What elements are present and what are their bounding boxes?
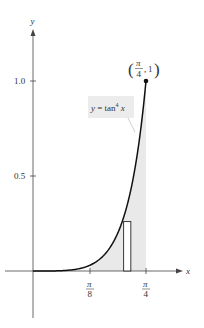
annotation-paren-right: )	[154, 60, 160, 79]
function-label: y = tan4 x	[90, 102, 125, 113]
representative-rectangle	[124, 222, 131, 271]
leader-line	[128, 118, 135, 132]
chart: x y 1.0 0.5 π 8 π 4 ( π 4 , 1 ) y = tan4…	[0, 0, 204, 328]
endpoint-dot	[144, 79, 149, 84]
y-tick-label-0.5: 0.5	[14, 171, 26, 181]
x-tick-label-pi-8-den: 8	[88, 289, 93, 299]
x-tick-label-pi-8-num: π	[87, 279, 92, 289]
annotation-num: π	[136, 58, 141, 68]
annotation-y: 1	[148, 64, 153, 74]
y-axis-arrow-icon	[31, 29, 36, 36]
x-tick-label-pi-4-num: π	[143, 279, 148, 289]
x-axis-arrow-icon	[176, 269, 183, 274]
x-tick-label-pi-4-den: 4	[144, 289, 149, 299]
x-axis-label: x	[185, 266, 190, 276]
annotation-den: 4	[137, 69, 142, 79]
y-axis-label: y	[30, 16, 35, 26]
annotation-comma: ,	[144, 64, 146, 74]
annotation-paren-left: (	[128, 60, 134, 79]
y-tick-label-1.0: 1.0	[14, 76, 26, 86]
